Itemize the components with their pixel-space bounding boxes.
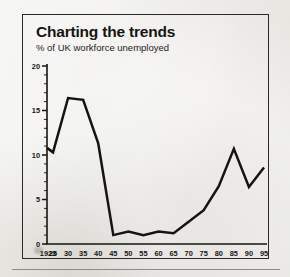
- x-tick-label: 50: [124, 249, 132, 258]
- x-tick-label: 55: [139, 249, 147, 258]
- chart-card: Charting the trends % of UK workforce un…: [22, 14, 269, 259]
- x-axis-labels: 1923253035404550556065707580859095: [40, 249, 268, 258]
- x-tick-label: 30: [64, 249, 72, 258]
- y-tick-label: 5: [36, 195, 40, 204]
- x-tick-label: 95: [260, 249, 268, 258]
- x-tick-label: 65: [169, 249, 177, 258]
- bottom-divider: [12, 269, 280, 270]
- x-tick-label: 40: [94, 249, 102, 258]
- x-tick-label: 35: [79, 249, 87, 258]
- x-tick-label: 80: [215, 249, 223, 258]
- x-tick-label: 75: [200, 249, 208, 258]
- line-chart-svg: 05101520 1923253035404550556065707580859…: [23, 15, 270, 260]
- y-tick-label: 15: [32, 106, 40, 115]
- y-tick-label: 0: [36, 240, 40, 249]
- x-tick-label: 70: [185, 249, 193, 258]
- x-tick-label: 60: [154, 249, 162, 258]
- y-tick-label: 10: [32, 151, 40, 160]
- x-tick-label: 25: [49, 249, 57, 258]
- data-series-line: [47, 98, 264, 235]
- x-tick-label: 45: [109, 249, 117, 258]
- plot-area: 05101520 1923253035404550556065707580859…: [23, 15, 270, 260]
- y-tick-label: 20: [32, 62, 40, 71]
- x-tick-label: 85: [230, 249, 238, 258]
- y-axis-labels: 05101520: [32, 62, 40, 249]
- x-tick-label: 90: [245, 249, 253, 258]
